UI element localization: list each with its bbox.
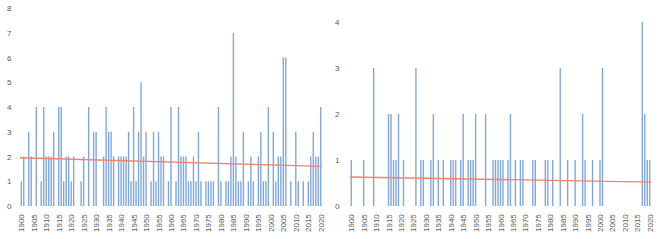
- data-bar: [170, 107, 171, 206]
- x-tick-label: 1935: [434, 214, 443, 232]
- data-bar: [522, 160, 523, 206]
- data-bar: [455, 160, 456, 206]
- y-tick-label: 1: [7, 177, 12, 186]
- data-bar: [510, 114, 511, 206]
- y-tick-label: 6: [7, 54, 12, 63]
- data-bar: [582, 114, 583, 206]
- x-tick-label: 1985: [559, 214, 568, 232]
- y-tick-label: 4: [335, 18, 340, 27]
- data-bar: [208, 181, 209, 206]
- data-bar: [388, 114, 389, 206]
- x-tick-label: 2015: [304, 214, 313, 232]
- x-tick-label: 1960: [167, 214, 176, 232]
- x-tick-label: 1965: [509, 214, 518, 232]
- data-bar: [48, 157, 49, 207]
- data-bar: [178, 107, 179, 206]
- data-bar: [150, 181, 151, 206]
- data-bar: [83, 157, 84, 207]
- x-tick-label: 1930: [422, 214, 431, 232]
- x-tick-label: 1975: [534, 214, 543, 232]
- y-tick-label: 1: [335, 156, 340, 165]
- data-bar: [275, 181, 276, 206]
- x-tick-label: 1940: [447, 214, 456, 232]
- data-bar: [143, 157, 144, 207]
- data-bar: [23, 157, 24, 207]
- data-bar: [218, 107, 219, 206]
- data-bar: [390, 114, 391, 206]
- data-bar: [65, 157, 66, 207]
- right-chart-panel: 0123419001905191019151920192519301935194…: [331, 0, 662, 239]
- data-bar: [649, 160, 650, 206]
- data-bar: [21, 181, 22, 206]
- data-bar: [295, 132, 296, 206]
- x-tick-label: 1915: [55, 214, 64, 232]
- x-tick-label: 1955: [155, 214, 164, 232]
- data-bar: [200, 181, 201, 206]
- data-bar: [163, 157, 164, 207]
- x-tick-label: 1945: [130, 214, 139, 232]
- data-bar: [168, 181, 169, 206]
- x-tick-label: 1900: [347, 214, 356, 232]
- data-bar: [285, 58, 286, 207]
- data-bar: [520, 160, 521, 206]
- data-bar: [492, 160, 493, 206]
- data-bar: [472, 160, 473, 206]
- x-tick-label: 1995: [584, 214, 593, 232]
- data-bar: [423, 160, 424, 206]
- data-bar: [567, 160, 568, 206]
- data-bar: [310, 157, 311, 207]
- data-bar: [592, 160, 593, 206]
- data-bar: [463, 114, 464, 206]
- x-tick-label: 1930: [92, 214, 101, 232]
- data-bar: [283, 58, 284, 207]
- data-bar: [290, 181, 291, 206]
- y-tick-label: 0: [335, 202, 340, 211]
- data-bar: [125, 157, 126, 207]
- x-tick-label: 2000: [267, 214, 276, 232]
- x-tick-label: 1990: [242, 214, 251, 232]
- data-bar: [240, 181, 241, 206]
- data-bar: [130, 181, 131, 206]
- data-bar: [318, 157, 319, 207]
- y-tick-label: 4: [7, 103, 12, 112]
- data-bar: [138, 132, 139, 206]
- data-bar: [36, 107, 37, 206]
- data-bar: [213, 181, 214, 206]
- data-bar: [265, 181, 266, 206]
- data-bar: [453, 160, 454, 206]
- data-bar: [535, 160, 536, 206]
- x-tick-label: 1900: [17, 214, 26, 232]
- y-tick-label: 5: [7, 78, 12, 87]
- data-bar: [351, 160, 352, 206]
- data-bar: [438, 160, 439, 206]
- data-bar: [398, 114, 399, 206]
- data-bar: [63, 181, 64, 206]
- data-bar: [28, 132, 29, 206]
- data-bar: [303, 181, 304, 206]
- data-bar: [93, 132, 94, 206]
- x-tick-label: 1975: [204, 214, 213, 232]
- data-bar: [430, 160, 431, 206]
- x-tick-label: 1950: [472, 214, 481, 232]
- x-tick-label: 1910: [372, 214, 381, 232]
- data-bar: [155, 181, 156, 206]
- x-tick-label: 1915: [385, 214, 394, 232]
- x-tick-label: 1970: [192, 214, 201, 232]
- data-bar: [560, 68, 561, 206]
- data-bar: [644, 114, 645, 206]
- data-bar: [308, 181, 309, 206]
- data-bar: [220, 181, 221, 206]
- data-bar: [273, 132, 274, 206]
- data-bar: [123, 157, 124, 207]
- data-bar: [135, 181, 136, 206]
- data-bar: [128, 132, 129, 206]
- x-tick-label: 1965: [179, 214, 188, 232]
- data-bar: [315, 157, 316, 207]
- data-bar: [450, 160, 451, 206]
- data-bar: [180, 157, 181, 207]
- y-tick-label: 3: [7, 128, 12, 137]
- data-bar: [233, 33, 234, 206]
- x-tick-label: 1980: [546, 214, 555, 232]
- y-tick-label: 7: [7, 29, 12, 38]
- data-bar: [642, 22, 643, 206]
